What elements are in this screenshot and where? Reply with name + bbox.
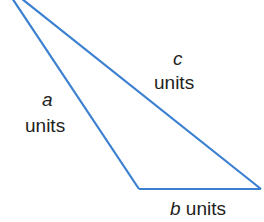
side-c-variable: c (173, 49, 183, 68)
side-b-variable: b (170, 198, 181, 219)
triangle-shape (0, 0, 264, 222)
side-c-unit: units (154, 73, 194, 92)
side-a-variable: a (42, 90, 53, 109)
side-a-unit: units (25, 116, 65, 135)
triangle-diagram: a units c units b units (0, 0, 264, 222)
side-b-unit: units (186, 198, 226, 219)
side-a-line (8, 0, 139, 189)
side-b-label: b units (170, 199, 226, 218)
